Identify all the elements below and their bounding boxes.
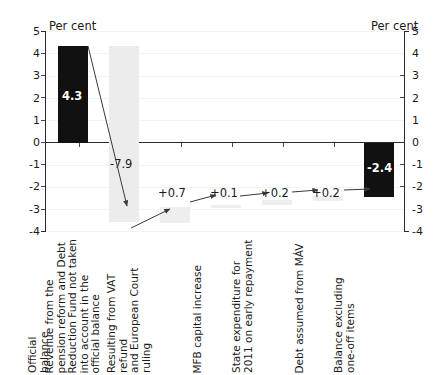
waterfall-chart: Per cent Per cent 5 4 3 2 1 0 -1 -2 -3 -… — [0, 0, 447, 375]
value-label-mav: +0.2 — [312, 186, 340, 200]
y-mark-left-3 — [41, 75, 45, 76]
right-spine-cap-bottom — [404, 231, 409, 232]
y-mark-left-1 — [41, 120, 45, 121]
y-tick-left-4: 4 — [18, 48, 40, 59]
gridline-m1 — [46, 165, 404, 166]
gridline-2 — [46, 98, 404, 99]
bar-pension-reform-delta — [109, 46, 139, 222]
x-tick-6 — [334, 143, 335, 147]
right-spine-cap-top — [404, 31, 409, 32]
value-label-early-repayment: +0.2 — [261, 186, 289, 200]
x-tick-3 — [181, 143, 182, 147]
gridline-3 — [46, 76, 404, 77]
y-tick-left-m2: -2 — [18, 181, 40, 192]
y-mark-left-2 — [41, 97, 45, 98]
gridline-4 — [46, 53, 404, 54]
category-label-balance-excluding: Balance excluding one-off items — [333, 238, 356, 373]
y-tick-left-2: 2 — [18, 93, 40, 104]
y-tick-right-1: 1 — [412, 115, 434, 126]
y-tick-right-4: 4 — [412, 48, 434, 59]
x-tick-1 — [79, 143, 80, 147]
gridline-1 — [46, 120, 404, 121]
gridline-m3 — [46, 209, 404, 210]
y-tick-right-2: 2 — [412, 93, 434, 104]
category-label-pension-reform: Revenue from the pension reform and Debt… — [44, 238, 102, 373]
y-mark-left-m1 — [41, 164, 45, 165]
y-tick-right-m3: -3 — [412, 204, 434, 215]
y-tick-right-3: 3 — [412, 70, 434, 81]
value-label-vat-refund: +0.7 — [158, 186, 186, 200]
category-label-mav: Debt assumed from MÁV — [294, 238, 306, 373]
bar-vat-refund — [160, 207, 190, 223]
value-label-balance-excluding: -2.4 — [367, 162, 392, 174]
y-mark-left-0 — [41, 142, 45, 143]
bar-mfb-capital-increase — [211, 205, 241, 208]
y-tick-right-0: 0 — [412, 137, 434, 148]
category-label-mfb: MFB capital increase — [192, 238, 204, 373]
zero-baseline — [46, 142, 404, 143]
x-tick-4 — [232, 143, 233, 147]
category-label-vat-refund: Resulting from VAT refund and European C… — [106, 238, 152, 373]
y-mark-left-m3 — [41, 209, 45, 210]
y-tick-left-1: 1 — [18, 115, 40, 126]
x-tick-5 — [283, 143, 284, 147]
value-label-pension-reform: -7.9 — [110, 158, 132, 170]
y-tick-right-5: 5 — [412, 26, 434, 37]
y-tick-right-m2: -2 — [412, 181, 434, 192]
value-label-mfb: +0.1 — [210, 186, 238, 200]
bar-early-repayment — [262, 200, 292, 205]
y-tick-right-m1: -1 — [412, 159, 434, 170]
y-mark-left-4 — [41, 53, 45, 54]
plot-area: 4.3 -7.9 +0.7 +0.1 +0.2 +0.2 -2.4 — [46, 31, 404, 232]
value-label-official-balance: 4.3 — [62, 90, 82, 102]
y-tick-left-3: 3 — [18, 70, 40, 81]
y-tick-left-5: 5 — [18, 26, 40, 37]
y-tick-left-0: 0 — [18, 137, 40, 148]
y-mark-left-m2 — [41, 186, 45, 187]
category-labels: Official balance Revenue from the pensio… — [0, 236, 447, 375]
gridline-m4 — [46, 231, 404, 232]
y-tick-left-m1: -1 — [18, 159, 40, 170]
y-tick-left-m3: -3 — [18, 204, 40, 215]
right-axis-spine — [404, 31, 405, 232]
category-label-early-repayment: State expenditure for 2011 on early repa… — [231, 238, 254, 373]
gridline-5 — [46, 31, 404, 32]
